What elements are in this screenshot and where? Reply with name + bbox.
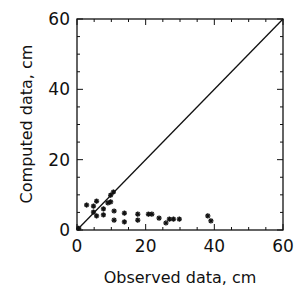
asterisk-marker — [122, 211, 127, 216]
y-tick-label: 60 — [48, 9, 70, 29]
asterisk-marker — [177, 216, 182, 221]
asterisk-marker — [94, 199, 99, 204]
y-tick-label: 0 — [59, 220, 70, 240]
asterisk-marker — [135, 212, 140, 217]
y-tick-label: 20 — [48, 150, 70, 170]
asterisk-marker — [111, 208, 116, 213]
asterisk-marker — [135, 218, 140, 223]
asterisk-marker — [91, 203, 96, 208]
asterisk-marker — [111, 218, 116, 223]
asterisk-marker — [205, 213, 210, 218]
asterisk-marker — [108, 199, 113, 204]
x-axis-label: Observed data, cm — [104, 268, 257, 287]
x-tick-label: 40 — [204, 236, 226, 256]
scatter-chart: 02040600204060 Observed data, cm Compute… — [0, 0, 304, 295]
y-tick-label: 40 — [48, 79, 70, 99]
asterisk-marker — [171, 216, 176, 221]
x-tick-label: 20 — [135, 236, 157, 256]
asterisk-marker — [94, 213, 99, 218]
one-to-one-line — [77, 19, 283, 230]
y-axis-label: Computed data, cm — [17, 45, 36, 204]
x-tick-label: 0 — [72, 236, 83, 256]
asterisk-marker — [122, 219, 127, 224]
asterisk-marker — [84, 202, 89, 207]
asterisk-marker — [76, 226, 81, 231]
asterisk-marker — [156, 215, 161, 220]
asterisk-marker — [101, 206, 106, 211]
asterisk-marker — [149, 212, 154, 217]
asterisk-marker — [208, 218, 213, 223]
x-tick-label: 60 — [272, 236, 294, 256]
asterisk-marker — [101, 212, 106, 217]
asterisk-marker — [111, 189, 116, 194]
